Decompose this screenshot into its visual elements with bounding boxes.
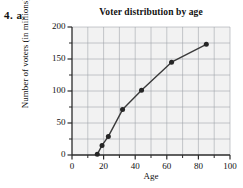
data-point — [106, 134, 111, 139]
y-tick-label: 0 — [44, 149, 66, 159]
y-tick-label: 200 — [44, 21, 66, 31]
chart-plot-area — [0, 0, 243, 188]
data-point — [169, 60, 174, 65]
x-tick-label: 60 — [157, 161, 177, 171]
figure-container: 4. a. Voter distribution by age Number o… — [0, 0, 243, 188]
data-point — [100, 143, 105, 148]
x-tick-label: 40 — [125, 161, 145, 171]
x-tick-label: 80 — [188, 161, 208, 171]
data-point — [95, 152, 100, 157]
y-tick-label: 100 — [44, 85, 66, 95]
y-tick-label: 150 — [44, 53, 66, 63]
data-point — [204, 42, 209, 47]
x-tick-label: 20 — [94, 161, 114, 171]
data-point — [139, 88, 144, 93]
x-tick-label: 0 — [62, 161, 82, 171]
y-tick-label: 50 — [44, 117, 66, 127]
data-point — [120, 107, 125, 112]
x-tick-label: 100 — [220, 161, 240, 171]
